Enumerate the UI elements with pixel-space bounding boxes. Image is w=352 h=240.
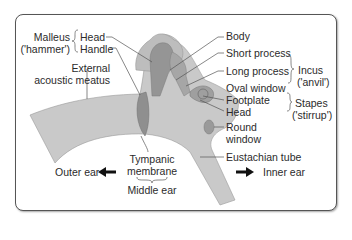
label-oval-window: Oval window <box>226 82 286 94</box>
label-tympanic-1: Tympanic <box>122 153 182 165</box>
label-round-window-1: Round <box>226 121 257 133</box>
label-external-meatus-1: External <box>40 62 110 74</box>
label-round-window-2: window <box>226 133 261 145</box>
label-stapes: Stapes <box>295 97 328 109</box>
label-external-meatus-2: acoustic meatus <box>20 74 110 86</box>
label-outer-ear: Outer ear <box>55 166 99 178</box>
label-middle-ear: Middle ear <box>117 184 187 196</box>
label-malleus-common: ('hammer') <box>12 43 70 55</box>
label-malleus-handle: Handle <box>80 43 113 55</box>
label-incus-common: ('anvil') <box>297 76 330 88</box>
label-incus-body: Body <box>226 30 250 42</box>
label-short-process: Short process <box>226 47 291 59</box>
label-tympanic-2: membrane <box>122 165 182 177</box>
label-long-process: Long process <box>226 65 289 77</box>
label-incus: Incus <box>298 64 323 76</box>
arrow-left-icon <box>98 167 116 177</box>
label-malleus-head: Head <box>80 31 105 43</box>
label-malleus: Malleus <box>20 31 70 43</box>
label-stapes-head: Head <box>226 106 251 118</box>
arrow-right-icon <box>236 167 254 177</box>
label-stapes-common: ('stirrup') <box>292 109 332 121</box>
round-window-shape <box>204 120 214 134</box>
label-eustachian-tube: Eustachian tube <box>226 151 301 163</box>
label-inner-ear: Inner ear <box>263 166 305 178</box>
label-footplate: Footplate <box>226 94 270 106</box>
